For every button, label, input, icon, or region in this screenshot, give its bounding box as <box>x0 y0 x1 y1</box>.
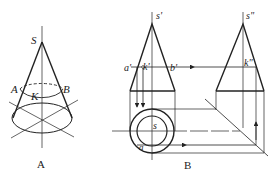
cone-right-edge <box>42 42 72 118</box>
caption-B: B <box>184 159 191 171</box>
label-a-prime: a' <box>124 62 132 73</box>
label-s-top: s <box>153 120 157 131</box>
label-s-double-prime: s" <box>246 10 255 21</box>
label-S: S <box>31 34 37 46</box>
label-s-prime: s' <box>156 10 163 21</box>
label-b-prime: b' <box>170 62 178 73</box>
cross-line-1 <box>9 102 74 137</box>
label-A: A <box>10 83 18 95</box>
label-k-double-prime: k" <box>244 57 253 68</box>
figure-b-projections <box>112 12 268 160</box>
label-a-top: a <box>139 142 144 152</box>
label-K: K <box>30 90 39 102</box>
side-cone <box>216 24 264 91</box>
label-B: B <box>63 83 70 95</box>
caption-A: A <box>37 158 45 170</box>
label-k-prime: k' <box>143 61 150 72</box>
section-front <box>20 89 63 98</box>
miter-line <box>205 99 268 156</box>
cone-projection-diagram: S A B K A <box>0 0 277 179</box>
cross-line-2 <box>11 100 78 138</box>
